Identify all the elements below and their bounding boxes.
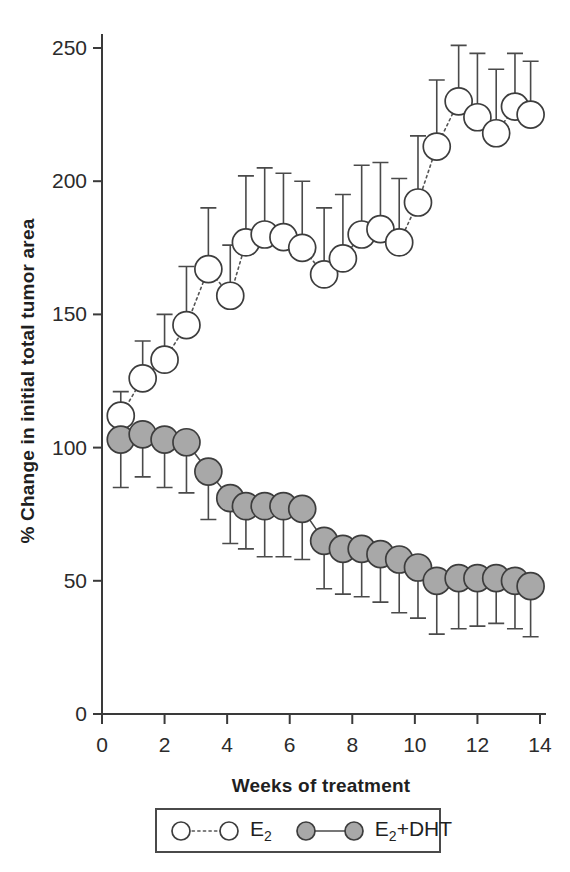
- data-point-marker: [195, 256, 222, 283]
- data-point-marker: [483, 120, 510, 147]
- data-point-marker: [404, 189, 431, 216]
- legend-entry-e2-dht[interactable]: E2+DHT: [294, 817, 452, 844]
- data-point-marker: [217, 282, 244, 309]
- chart-axes: 05010015020025002468101214: [52, 34, 552, 756]
- x-axis-tick-label: 12: [466, 733, 489, 756]
- data-point-marker: [151, 346, 178, 373]
- data-point-marker: [517, 101, 544, 128]
- legend-entry-label: E2: [250, 817, 272, 844]
- series-line: [121, 434, 531, 586]
- data-point-marker: [423, 133, 450, 160]
- y-axis-tick-label: 150: [52, 302, 87, 325]
- filled-circle-icon: [294, 818, 366, 844]
- y-axis-tick-label: 50: [64, 569, 87, 592]
- data-point-marker: [289, 234, 316, 261]
- legend-entry-e2[interactable]: E2: [169, 817, 272, 844]
- y-axis-tick-label: 200: [52, 169, 87, 192]
- data-point-marker: [329, 245, 356, 272]
- y-axis-tick-label: 100: [52, 436, 87, 459]
- data-point-marker: [289, 495, 316, 522]
- chart-series-layer: [107, 45, 544, 636]
- x-axis-tick-label: 4: [221, 733, 233, 756]
- series-line: [121, 101, 531, 415]
- legend-entry-label: E2+DHT: [375, 817, 452, 844]
- data-point-marker: [129, 365, 156, 392]
- x-axis-tick-label: 8: [346, 733, 358, 756]
- chart-canvas: 05010015020025002468101214 Weeks of trea…: [0, 0, 570, 872]
- series-e2-dht: [107, 421, 544, 637]
- legend-marker: [220, 822, 238, 840]
- x-axis-tick-label: 14: [528, 733, 552, 756]
- x-axis-tick-label: 0: [96, 733, 108, 756]
- x-axis-tick-label: 10: [403, 733, 426, 756]
- data-point-marker: [386, 229, 413, 256]
- y-axis-title: % Change in initial total tumor area: [17, 218, 38, 543]
- chart-legend: E2E2+DHT: [155, 808, 441, 853]
- open-circle-icon: [169, 818, 241, 844]
- series-e2: [107, 45, 544, 429]
- y-axis-tick-label: 0: [75, 702, 87, 725]
- legend-marker: [172, 822, 190, 840]
- data-point-marker: [173, 429, 200, 456]
- legend-marker: [297, 822, 315, 840]
- x-axis-title: Weeks of treatment: [232, 775, 411, 796]
- legend-marker: [345, 822, 363, 840]
- x-axis-tick-label: 2: [159, 733, 171, 756]
- data-point-marker: [173, 312, 200, 339]
- y-axis-tick-label: 250: [52, 36, 87, 59]
- data-point-marker: [107, 402, 134, 429]
- data-point-marker: [195, 458, 222, 485]
- x-axis-tick-label: 6: [284, 733, 296, 756]
- chart-figure: 05010015020025002468101214 Weeks of trea…: [0, 0, 570, 872]
- data-point-marker: [517, 573, 544, 600]
